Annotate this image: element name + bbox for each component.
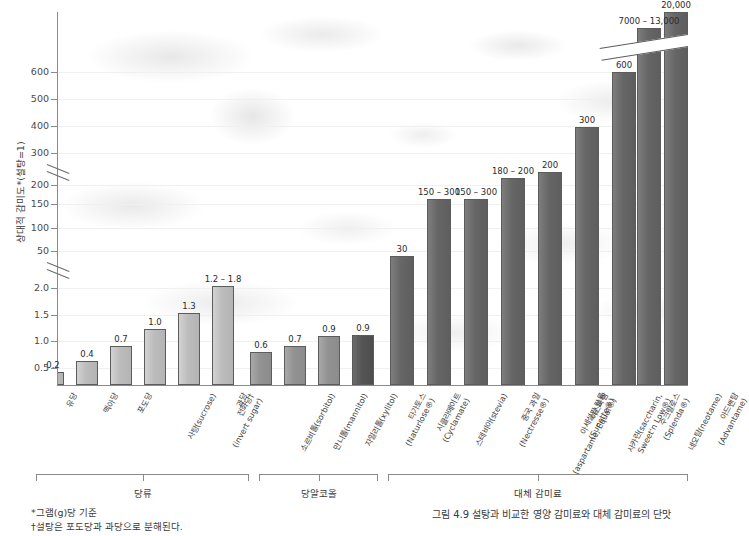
- x-label-line1: 맥아당: [102, 392, 120, 415]
- group-bracket-sugars: [36, 474, 249, 483]
- bar-value-lactose: 0.2: [20, 361, 86, 370]
- x-label-line1: 유당: [64, 392, 79, 409]
- bar-neotame[interactable]: [637, 28, 661, 385]
- y-tick-label: 1.5: [9, 310, 49, 319]
- bar-value-tagatose: 0.9: [330, 324, 396, 333]
- x-axis-line: [57, 385, 688, 386]
- x-label-lactose[interactable]: 유당: [64, 392, 79, 409]
- bar-stevia[interactable]: [427, 199, 451, 385]
- bar-value-saccharin: 300: [553, 116, 621, 125]
- bar-value-fructose: 1.2 – 1.8: [190, 275, 256, 284]
- y-tick-mark: [51, 99, 57, 100]
- bracket-cap-left: [388, 474, 389, 481]
- gridline: [57, 99, 688, 100]
- y-axis-break-upper: [47, 162, 69, 178]
- bar-sorbitol[interactable]: [250, 352, 272, 385]
- x-label-glucose[interactable]: 포도당: [136, 392, 154, 415]
- bracket-cap-right: [248, 474, 249, 481]
- group-label-sugar-alcohols: 당알코올: [259, 486, 378, 500]
- group-label-sugars: 당류: [36, 486, 249, 500]
- y-tick-mark: [51, 315, 57, 316]
- bar-lactose[interactable]: [57, 372, 64, 385]
- y-tick-mark: [51, 153, 57, 154]
- bar-value-sucrose: 1.0: [122, 318, 188, 327]
- bracket-cap-right: [687, 474, 688, 481]
- bar-value-invert-sugar: 1.3: [156, 302, 222, 311]
- bracket-center-tick: [319, 474, 320, 481]
- bar-value-monk-fruit: 150 – 300: [442, 188, 510, 197]
- x-label-tagatose[interactable]: 타가토스(Naturlose®): [395, 392, 437, 448]
- y-tick-label: 500: [9, 94, 49, 103]
- x-label-xylitol[interactable]: 자일리톨(xylitol): [364, 392, 400, 448]
- bar-ace-k[interactable]: [538, 172, 562, 385]
- x-label-line1: 자일리톨(xylitol): [364, 392, 399, 448]
- footnote-1: *그램(g)당 기준: [31, 506, 97, 519]
- y-tick-label: 2.0: [9, 283, 49, 292]
- x-label-line1: 스테비아(stevia): [474, 392, 509, 448]
- bar-value-maltose: 0.4: [54, 350, 120, 359]
- bracket-center-tick: [143, 474, 144, 481]
- x-label-sucrose[interactable]: 사탕(sucrose): [186, 392, 218, 441]
- gridline: [57, 72, 688, 73]
- bar-tagatose[interactable]: [352, 335, 374, 385]
- bar-value-ace-k: 200: [516, 161, 584, 170]
- bracket-center-tick: [538, 474, 539, 481]
- bracket-cap-left: [36, 474, 37, 481]
- bar-monk-fruit[interactable]: [464, 199, 488, 385]
- bar-mannitol[interactable]: [284, 346, 306, 385]
- bracket-cap-right: [377, 474, 378, 481]
- y-tick-mark: [51, 204, 57, 205]
- figure-caption: 그림 4.9 설탕과 비교한 영양 감미료와 대체 감미료의 단맛: [432, 508, 703, 522]
- bar-value-neotame: 7000 – 13,000: [615, 17, 683, 26]
- bar-value-cyclamate: 30: [368, 245, 436, 254]
- x-label-monk-fruit[interactable]: 중국 과일(Nectresse®): [509, 392, 551, 449]
- x-label-stevia[interactable]: 스테비아(stevia): [474, 392, 510, 448]
- bar-value-sucralose: 600: [590, 61, 658, 70]
- y-tick-label: 1.0: [9, 336, 49, 345]
- x-label-ace-k[interactable]: 아세설팜 칼륨(Sunette®): [578, 392, 616, 441]
- bar-advantame[interactable]: [664, 12, 688, 385]
- group-label-alt-sweeteners: 대체 감미료: [388, 486, 688, 500]
- bar-value-glucose: 0.7: [88, 335, 154, 344]
- bar-fructose[interactable]: [212, 286, 234, 385]
- y-axis-break-lower: [47, 260, 69, 276]
- bar-value-advantame: 20,000: [642, 1, 710, 10]
- bracket-cap-left: [259, 474, 260, 481]
- y-axis-title: 상대적 감미도*(설탕=1): [13, 112, 27, 272]
- y-tick-mark: [51, 228, 57, 229]
- bar-cyclamate[interactable]: [390, 256, 414, 385]
- x-label-maltose[interactable]: 맥아당: [102, 392, 120, 415]
- bar-value-mannitol: 0.7: [262, 335, 328, 344]
- y-tick-mark: [51, 251, 57, 252]
- y-tick-mark: [51, 126, 57, 127]
- x-label-line1: 포도당: [136, 392, 154, 415]
- y-tick-mark: [51, 72, 57, 73]
- x-label-line1: 사탕(sucrose): [186, 392, 218, 441]
- y-tick-mark: [51, 185, 57, 186]
- footnote-2: †설탕은 포도당과 과당으로 분해된다.: [31, 520, 183, 533]
- y-tick-mark: [51, 288, 57, 289]
- group-bracket-sugar-alcohols: [259, 474, 378, 483]
- y-tick-label: 600: [9, 67, 49, 76]
- x-label-line1: 소르비톨(sorbitol): [299, 392, 337, 453]
- group-bracket-alt-sweeteners: [388, 474, 688, 483]
- x-label-cyclamate[interactable]: 시클라메이트(Cyclamate): [432, 392, 472, 444]
- x-label-sorbitol[interactable]: 소르비톨(sorbitol): [299, 392, 338, 453]
- y-axis-line: [57, 12, 58, 385]
- y-tick-mark: [51, 341, 57, 342]
- bar-aspartame[interactable]: [501, 178, 525, 385]
